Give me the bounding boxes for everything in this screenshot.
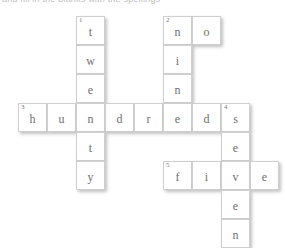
cell-r3c6[interactable]: d <box>192 103 221 132</box>
cell-r3c5[interactable]: e <box>163 103 192 132</box>
cell-r0c6[interactable]: o <box>192 16 221 45</box>
cell-r1c5[interactable]: i <box>163 45 192 74</box>
cell-letter: s <box>222 112 249 124</box>
cell-letter: h <box>19 112 46 124</box>
cell-number: 4 <box>224 104 228 112</box>
cell-r0c2[interactable]: 1t <box>76 16 105 45</box>
cell-r5c6[interactable]: i <box>192 161 221 190</box>
cell-r7c7[interactable]: n <box>221 219 250 248</box>
cell-r1c2[interactable]: w <box>76 45 105 74</box>
cell-r4c2[interactable]: t <box>76 132 105 161</box>
cell-r5c7[interactable]: v <box>221 161 250 190</box>
cell-letter: u <box>48 112 75 124</box>
cell-r3c1[interactable]: u <box>47 103 76 132</box>
cell-letter: t <box>77 141 104 153</box>
cell-r2c5[interactable]: n <box>163 74 192 103</box>
cell-letter: o <box>193 25 220 37</box>
cell-r3c3[interactable]: d <box>105 103 134 132</box>
cell-letter: y <box>77 170 104 182</box>
cell-number: 3 <box>21 104 25 112</box>
cell-letter: v <box>222 170 249 182</box>
cell-number: 5 <box>166 162 170 170</box>
cell-letter: n <box>164 25 191 37</box>
cell-letter: n <box>164 83 191 95</box>
cell-letter: e <box>251 170 278 182</box>
cell-letter: e <box>164 112 191 124</box>
cell-r3c2[interactable]: n <box>76 103 105 132</box>
cell-letter: e <box>222 199 249 211</box>
cell-r6c7[interactable]: e <box>221 190 250 219</box>
cell-r2c2[interactable]: e <box>76 74 105 103</box>
cell-letter: i <box>164 54 191 66</box>
cell-letter: e <box>222 141 249 153</box>
cell-letter: d <box>106 112 133 124</box>
cell-r5c8[interactable]: e <box>250 161 279 190</box>
cell-r0c5[interactable]: 2n <box>163 16 192 45</box>
cell-r3c4[interactable]: r <box>134 103 163 132</box>
cell-letter: t <box>77 25 104 37</box>
cell-r5c2[interactable]: y <box>76 161 105 190</box>
cell-r4c7[interactable]: e <box>221 132 250 161</box>
cell-letter: e <box>77 83 104 95</box>
cell-letter: w <box>77 54 104 66</box>
cell-letter: d <box>193 112 220 124</box>
cell-letter: n <box>77 112 104 124</box>
cell-letter: r <box>135 112 162 124</box>
cell-r3c7[interactable]: 4s <box>221 103 250 132</box>
cell-r5c5[interactable]: 5f <box>163 161 192 190</box>
cell-letter: i <box>193 170 220 182</box>
cell-r3c0[interactable]: 3h <box>18 103 47 132</box>
cell-letter: n <box>222 228 249 240</box>
cell-number: 2 <box>166 17 170 25</box>
cell-letter: f <box>164 170 191 182</box>
cell-number: 1 <box>79 17 83 25</box>
